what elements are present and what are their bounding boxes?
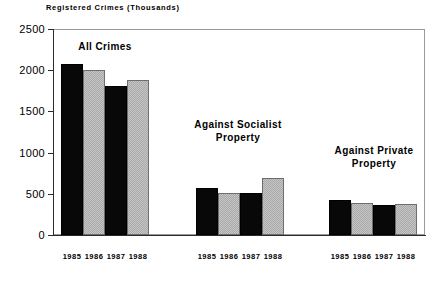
bar — [262, 178, 284, 235]
x-axis-line — [53, 235, 426, 236]
bar — [61, 64, 83, 235]
y-axis-tick — [48, 194, 54, 195]
bar — [127, 80, 149, 235]
y-axis-line — [53, 29, 54, 236]
y-axis-tick-label: 2000 — [19, 64, 45, 76]
y-axis-tick-label: 500 — [26, 188, 45, 200]
y-axis-tick — [48, 153, 54, 154]
group-label: All Crimes — [61, 40, 149, 53]
x-axis-tick-label: 1988 — [258, 252, 288, 261]
bar — [395, 204, 417, 235]
group-label: Against Private Property — [320, 144, 428, 170]
bar — [329, 200, 351, 235]
bar — [83, 70, 105, 235]
bar — [240, 193, 262, 235]
bar — [218, 193, 240, 235]
chart-title: Registered Crimes (Thousands) — [46, 3, 180, 12]
bar-chart: Registered Crimes (Thousands) 0500100015… — [0, 0, 441, 289]
bar — [196, 188, 218, 235]
y-axis-tick-label: 1000 — [19, 147, 45, 159]
y-axis-tick-label: 0 — [39, 229, 45, 241]
y-axis-tick — [48, 70, 54, 71]
bar — [105, 86, 127, 235]
bar — [351, 203, 373, 235]
group-label: Against Socialist Property — [182, 118, 294, 144]
x-axis-tick-label: 1988 — [123, 252, 153, 261]
y-axis-tick — [48, 29, 54, 30]
y-axis-tick-label: 1500 — [19, 105, 45, 117]
y-axis-tick — [48, 111, 54, 112]
y-axis-tick — [48, 235, 54, 236]
y-axis-tick-label: 2500 — [19, 23, 45, 35]
x-axis-tick-label: 1988 — [391, 252, 421, 261]
bar — [373, 205, 395, 235]
